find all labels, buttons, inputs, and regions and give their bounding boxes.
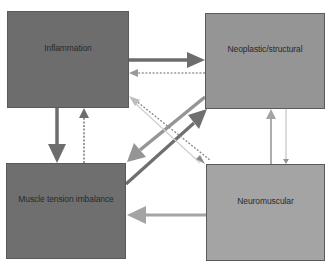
node-label: Muscle tension imbalance [18,194,113,204]
arrow-inflammation-to-muscle [48,108,66,163]
node-neuromuscular: Neuromuscular [206,164,325,261]
arrow-neoplastic-to-neuro [283,109,289,164]
node-label: Neoplastic/structural [228,44,303,54]
node-inflammation: Inflammation [7,11,129,108]
node-label: Neuromuscular [237,196,293,206]
arrow-inflammation-to-neoplastic [129,52,205,68]
arrow-neuro-to-neoplastic [266,109,276,164]
node-label: Inflammation [44,43,91,53]
arrow-neuro-to-muscle [127,206,206,224]
arrow-muscle-to-neoplastic [126,109,207,184]
arrow-muscle-to-inflammation [79,108,89,163]
arrow-neoplastic-to-inflammation [129,69,205,77]
node-neoplastic-structural: Neoplastic/structural [205,13,325,109]
node-muscle-tension-imbalance: Muscle tension imbalance [6,163,126,259]
arrow-inflammation-to-neuro [135,100,210,160]
